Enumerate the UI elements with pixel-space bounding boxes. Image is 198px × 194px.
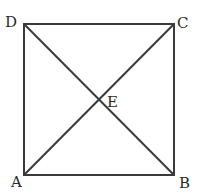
intersection-label-e: E <box>107 95 118 110</box>
vertex-label-d: D <box>5 15 17 30</box>
vertex-label-a: A <box>11 175 22 190</box>
diagram-canvas <box>0 0 198 194</box>
square-diagram: D C A B E <box>0 0 198 194</box>
vertex-label-b: B <box>179 176 190 191</box>
vertex-label-c: C <box>177 16 188 31</box>
